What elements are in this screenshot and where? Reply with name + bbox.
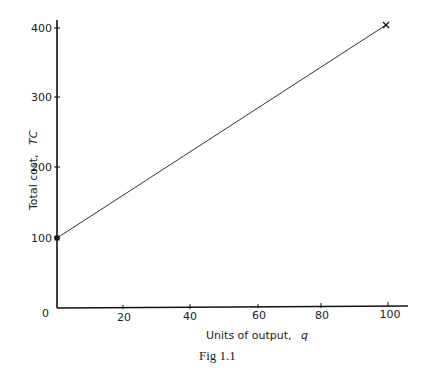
x-tick-label-100: 100 bbox=[380, 308, 401, 321]
chart-canvas: 400 300 200 100 0 20 40 60 80 100 Units … bbox=[0, 0, 429, 370]
y-axis-symbol: TC bbox=[27, 130, 40, 145]
y-tick-label-400: 400 bbox=[31, 22, 52, 35]
y-tick-label-100: 100 bbox=[31, 232, 52, 245]
x-tick-label-60: 60 bbox=[252, 309, 266, 322]
origin-label: 0 bbox=[42, 307, 49, 320]
start-point-marker bbox=[55, 236, 60, 241]
x-axis-symbol: q bbox=[301, 329, 308, 342]
x-axis-title: Units of output, q bbox=[206, 329, 308, 342]
x-tick-label-20: 20 bbox=[117, 311, 131, 324]
x-axis-title-text: Units of output, bbox=[206, 329, 292, 342]
y-axis-title: Total cost, TC bbox=[27, 130, 40, 211]
x-axis bbox=[57, 306, 408, 308]
total-cost-line bbox=[57, 25, 386, 238]
y-axis-title-text: Total cost, bbox=[27, 154, 40, 211]
end-point-cross-marker bbox=[383, 22, 389, 28]
figure-caption: Fig 1.1 bbox=[199, 348, 236, 363]
x-tick-label-40: 40 bbox=[183, 310, 197, 323]
y-tick-label-300: 300 bbox=[31, 91, 52, 104]
x-tick-label-80: 80 bbox=[315, 309, 329, 322]
